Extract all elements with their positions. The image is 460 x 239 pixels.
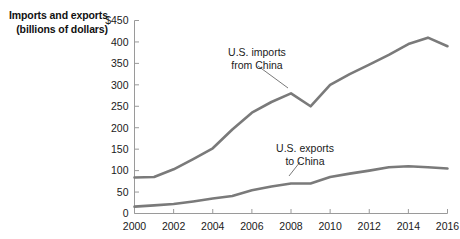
series-lines	[135, 38, 448, 207]
x-axis-group: 200020022004200620082010201220142016	[123, 209, 460, 232]
imports-annotation-label-line-2: from China	[231, 59, 283, 71]
y-tick-label: 250	[111, 100, 129, 112]
line-chart: $450400350300250200150100500 20002002200…	[0, 0, 460, 239]
x-tick-label: 2010	[318, 220, 342, 232]
y-axis-group: $450400350300250200150100500	[105, 14, 139, 219]
x-tick-label: 2012	[358, 220, 382, 232]
y-tick-label: $450	[105, 14, 129, 26]
x-tick-label: 2000	[123, 220, 147, 232]
x-tick-marks	[174, 209, 448, 214]
x-tick-labels: 200020022004200620082010201220142016	[123, 220, 460, 232]
y-tick-label: 100	[111, 164, 129, 176]
x-tick-label: 2006	[240, 220, 264, 232]
y-tick-label: 150	[111, 143, 129, 155]
x-tick-label: 2008	[279, 220, 303, 232]
exports-annotation-label-line-1: U.S. exports	[276, 142, 334, 154]
x-tick-label: 2014	[397, 220, 421, 232]
x-tick-label: 2016	[436, 220, 460, 232]
exports-annotation-label-line-2: to China	[285, 155, 324, 167]
y-tick-label: 50	[117, 186, 129, 198]
x-tick-label: 2004	[201, 220, 225, 232]
chart-screenshot: Imports and exports (billions of dollars…	[0, 0, 460, 239]
imports-annotation-label-line-1: U.S. imports	[228, 46, 286, 58]
y-tick-label: 200	[111, 122, 129, 134]
x-tick-label: 2002	[162, 220, 186, 232]
y-tick-marks	[135, 21, 140, 214]
y-tick-label: 300	[111, 79, 129, 91]
y-tick-label: 350	[111, 57, 129, 69]
y-tick-label: 0	[123, 207, 129, 219]
y-tick-label: 400	[111, 36, 129, 48]
annotations: U.S. imports from China U.S. exports to …	[228, 46, 334, 176]
y-tick-labels: $450400350300250200150100500	[105, 14, 129, 219]
series-line-exports	[135, 166, 448, 206]
